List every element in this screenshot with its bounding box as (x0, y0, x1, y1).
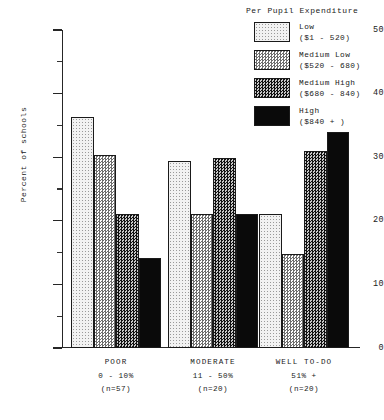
legend-items: Low($1 - 520)Medium Low($520 - 680)Mediu… (236, 22, 384, 128)
x-group-range: 0 - 10% (61, 370, 171, 384)
bar (236, 214, 259, 348)
y-tick-mark (53, 347, 62, 348)
y-tick-mark (53, 29, 62, 30)
bar (282, 254, 305, 348)
x-group-label: POOR0 - 10%(n=57) (61, 356, 171, 397)
bar-chart: Percent of schools 50403020100 POOR0 - 1… (0, 0, 384, 420)
bar (259, 214, 282, 348)
bar (191, 214, 214, 348)
y-minor-tick-mark (57, 125, 62, 126)
bar (168, 161, 191, 348)
legend-label-name: Medium High (299, 78, 361, 89)
bar (139, 258, 162, 348)
x-group-count: (n=20) (249, 383, 359, 397)
y-minor-tick-mark (57, 316, 62, 317)
legend-label-range: ($1 - 520) (299, 33, 350, 44)
legend-item: High($840 + ) (236, 106, 384, 128)
x-group-name: POOR (61, 356, 171, 370)
legend-item: Low($1 - 520) (236, 22, 384, 44)
legend-label: Medium Low($520 - 680) (299, 50, 361, 72)
legend-label-name: High (299, 106, 345, 117)
y-tick-mark (53, 220, 62, 221)
bar (71, 117, 94, 348)
bar (304, 151, 327, 348)
y-tick-mark (53, 93, 62, 94)
legend-swatch (254, 106, 290, 126)
x-axis-group-labels: POOR0 - 10%(n=57)MODERATE11 - 50%(n=20)W… (63, 352, 360, 412)
legend-label-range: ($840 + ) (299, 117, 345, 128)
legend-swatch (254, 22, 290, 42)
y-minor-tick-mark (57, 188, 62, 189)
legend-title: Per Pupil Expenditure (246, 6, 384, 15)
legend-label: Low($1 - 520) (299, 22, 350, 44)
legend-item: Medium Low($520 - 680) (236, 50, 384, 72)
bar (213, 158, 236, 348)
legend-label-range: ($520 - 680) (299, 61, 361, 72)
x-group-range: 51% + (249, 370, 359, 384)
bar (116, 214, 139, 348)
legend-label-name: Low (299, 22, 350, 33)
legend-label-range: ($680 - 840) (299, 89, 361, 100)
legend-swatch (254, 50, 290, 70)
legend-item: Medium High($680 - 840) (236, 78, 384, 100)
legend-label-name: Medium Low (299, 50, 361, 61)
legend-swatch (254, 78, 290, 98)
y-minor-tick-mark (57, 252, 62, 253)
bar-group (71, 30, 161, 348)
legend-label: High($840 + ) (299, 106, 345, 128)
y-tick-mark (53, 157, 62, 158)
y-minor-tick-mark (57, 61, 62, 62)
y-tick-mark (53, 284, 62, 285)
bar (94, 155, 117, 348)
x-group-label: WELL TO-DO51% +(n=20) (249, 356, 359, 397)
legend: Per Pupil Expenditure Low($1 - 520)Mediu… (236, 6, 384, 134)
legend-label: Medium High($680 - 840) (299, 78, 361, 100)
x-group-name: WELL TO-DO (249, 356, 359, 370)
y-axis-title: Percent of schools (19, 80, 28, 230)
bar (327, 132, 350, 348)
x-group-count: (n=57) (61, 383, 171, 397)
